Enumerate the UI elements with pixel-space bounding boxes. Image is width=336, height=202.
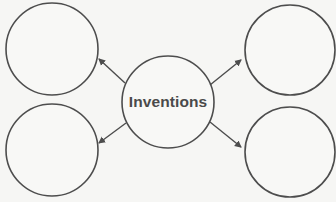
- node-top-right[interactable]: [245, 5, 335, 95]
- arrow-to-top-right: [210, 60, 241, 85]
- node-bottom-left[interactable]: [6, 104, 98, 196]
- node-bottom-right[interactable]: [245, 107, 335, 197]
- arrow-to-top-left: [99, 59, 125, 83]
- arrow-to-bottom-right: [210, 122, 241, 147]
- concept-map: Inventions: [0, 0, 336, 202]
- node-top-left[interactable]: [6, 3, 98, 95]
- arrow-to-bottom-left: [99, 123, 126, 143]
- center-node-label: Inventions: [122, 89, 214, 115]
